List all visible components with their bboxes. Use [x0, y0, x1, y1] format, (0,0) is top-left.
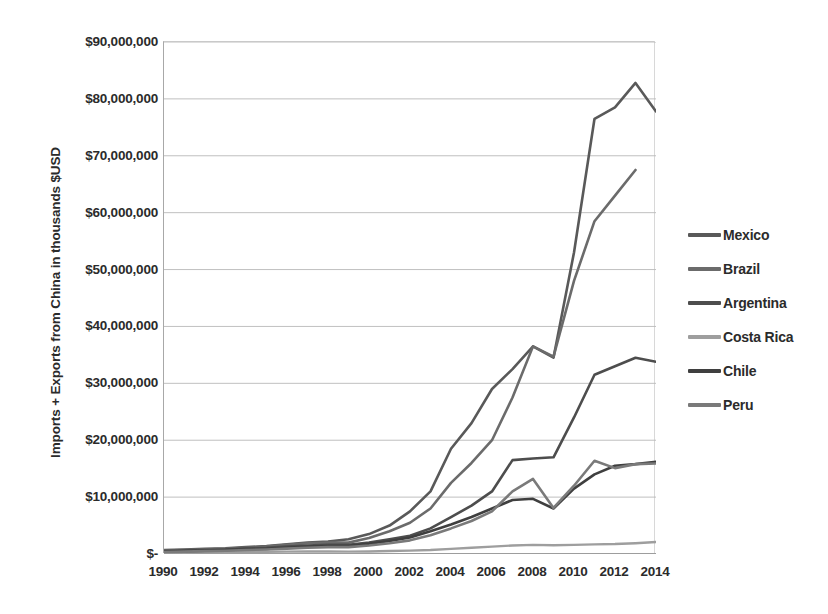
legend-item-label: Mexico	[723, 227, 769, 243]
y-tick-label: $60,000,000	[48, 204, 158, 219]
legend-line-swatch-icon	[688, 233, 721, 237]
plot-area	[163, 41, 655, 553]
y-tick-label: $90,000,000	[48, 34, 158, 49]
legend-item-label: Brazil	[723, 261, 760, 277]
x-tick-label: 2000	[353, 564, 382, 579]
legend-item-label: Costa Rica	[723, 329, 793, 345]
legend-item-label: Chile	[723, 363, 756, 379]
x-tick-label: 2010	[558, 564, 587, 579]
legend-item-costa-rica[interactable]: Costa Rica	[688, 320, 828, 354]
series-lines	[164, 83, 656, 553]
y-tick-label: $70,000,000	[48, 147, 158, 162]
legend-item-argentina[interactable]: Argentina	[688, 286, 828, 320]
y-tick-label: $50,000,000	[48, 261, 158, 276]
legend-line-swatch-icon	[688, 267, 721, 271]
legend-item-chile[interactable]: Chile	[688, 354, 828, 388]
legend-line-swatch-icon	[688, 301, 721, 305]
legend-item-peru[interactable]: Peru	[688, 388, 828, 422]
y-tick-label: $80,000,000	[48, 90, 158, 105]
legend: MexicoBrazilArgentinaCosta RicaChilePeru	[688, 218, 828, 422]
x-tick-label: 2002	[394, 564, 423, 579]
x-tick-label: 2006	[476, 564, 505, 579]
series-line-mexico	[164, 83, 656, 550]
legend-item-label: Argentina	[723, 295, 787, 311]
legend-line-swatch-icon	[688, 369, 721, 373]
legend-item-label: Peru	[723, 397, 753, 413]
series-line-brazil	[164, 170, 636, 551]
x-tick-label: 1998	[312, 564, 341, 579]
y-tick-label: $30,000,000	[48, 375, 158, 390]
legend-item-brazil[interactable]: Brazil	[688, 252, 828, 286]
legend-item-mexico[interactable]: Mexico	[688, 218, 828, 252]
x-tick-label: 1992	[189, 564, 218, 579]
x-tick-label: 1994	[230, 564, 259, 579]
legend-line-swatch-icon	[688, 335, 721, 339]
x-tick-label: 2012	[599, 564, 628, 579]
x-axis-tick-labels: 1990199219941996199820002002200420062008…	[163, 564, 655, 588]
x-tick-label: 2004	[435, 564, 464, 579]
x-tick-label: 1996	[271, 564, 300, 579]
plot-svg	[164, 42, 656, 554]
x-tick-label: 2008	[517, 564, 546, 579]
y-tick-label: $20,000,000	[48, 432, 158, 447]
line-chart: Imports + Exports from China in thousand…	[0, 0, 828, 614]
legend-line-swatch-icon	[688, 403, 721, 407]
y-tick-label: $40,000,000	[48, 318, 158, 333]
x-tick-label: 1990	[148, 564, 177, 579]
y-axis-tick-labels: $-$10,000,000$20,000,000$30,000,000$40,0…	[48, 41, 158, 553]
y-tick-label: $10,000,000	[48, 489, 158, 504]
x-tick-label: 2014	[640, 564, 669, 579]
y-tick-label: $-	[48, 546, 158, 561]
